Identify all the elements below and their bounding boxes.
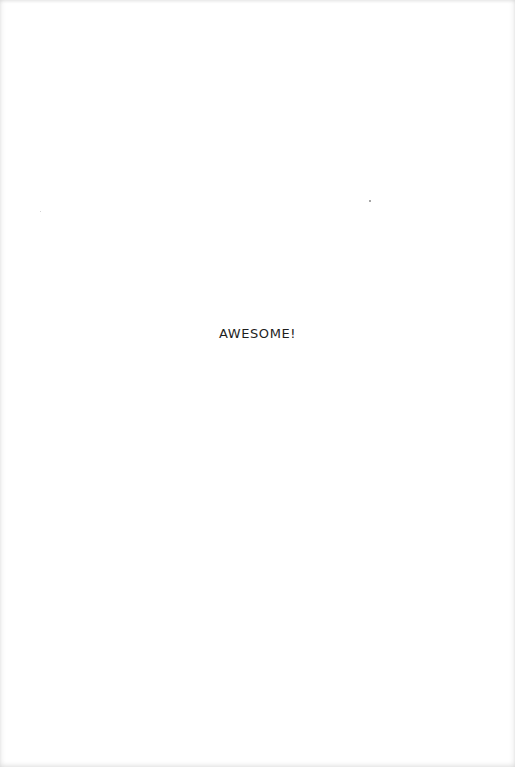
- scanned-page: AWESOME!: [0, 0, 515, 767]
- scan-speck: [369, 200, 371, 202]
- headline-text: AWESOME!: [0, 326, 515, 342]
- scan-speck: [40, 211, 41, 212]
